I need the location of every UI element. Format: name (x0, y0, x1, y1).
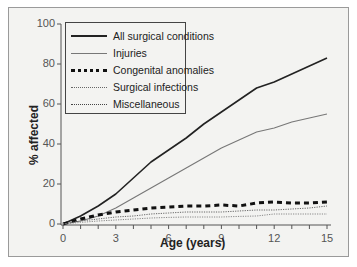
legend-swatch-dashed-thick (71, 69, 107, 72)
legend-swatch-dotted (71, 104, 107, 105)
legend-item-all-surgical: All surgical conditions (71, 27, 214, 45)
y-tick-label: 0 (25, 217, 55, 229)
legend: All surgical conditions Injuries Congeni… (65, 22, 186, 114)
y-tick-label: 100 (25, 17, 55, 29)
series-line-congenital-anomalies (63, 202, 327, 224)
legend-item-miscellaneous: Miscellaneous (71, 95, 180, 113)
x-tick-label: 12 (264, 232, 284, 244)
legend-label: Congenital anomalies (113, 64, 214, 76)
x-tick-label: 3 (106, 232, 126, 244)
legend-label: Surgical infections (113, 81, 198, 93)
y-axis-label: % affected (27, 95, 41, 175)
legend-label: Injuries (113, 47, 147, 59)
legend-swatch-solid-thick (71, 35, 107, 37)
x-axis-label: Age (years) (160, 236, 225, 250)
legend-label: Miscellaneous (113, 98, 180, 110)
legend-label: All surgical conditions (113, 30, 214, 42)
y-tick-label: 20 (25, 177, 55, 189)
legend-swatch-dotted (71, 87, 107, 88)
y-tick-label: 80 (25, 57, 55, 69)
legend-item-congenital: Congenital anomalies (71, 61, 214, 79)
legend-swatch-solid-thin (71, 53, 107, 54)
legend-item-injuries: Injuries (71, 44, 147, 62)
x-tick-label: 15 (317, 232, 337, 244)
x-tick-label: 0 (53, 232, 73, 244)
legend-item-surgical-infections: Surgical infections (71, 78, 198, 96)
